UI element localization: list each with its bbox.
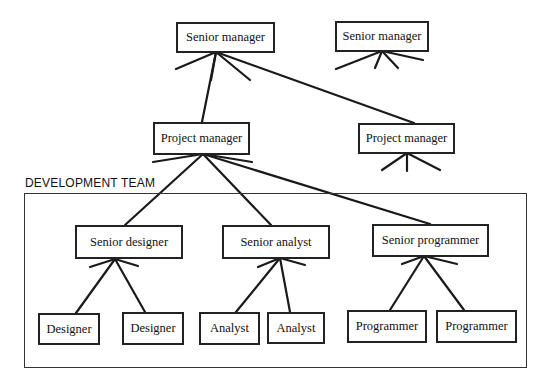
node-designer-2: Designer <box>122 312 184 345</box>
node-project-manager-2: Project manager <box>358 123 455 154</box>
development-team-label: DEVELOPMENT TEAM <box>25 176 155 190</box>
node-programmer-1: Programmer <box>347 310 427 343</box>
node-programmer-2: Programmer <box>436 310 517 343</box>
node-project-manager-1: Project manager <box>153 122 250 155</box>
node-senior-manager-2: Senior manager <box>335 21 429 52</box>
node-senior-manager-1: Senior manager <box>176 22 275 53</box>
node-senior-programmer: Senior programmer <box>372 224 489 257</box>
node-senior-analyst: Senior analyst <box>222 225 330 259</box>
node-designer-1: Designer <box>38 313 100 345</box>
node-analyst-2: Analyst <box>267 312 325 344</box>
node-analyst-1: Analyst <box>199 312 260 345</box>
node-senior-designer: Senior designer <box>75 225 183 259</box>
